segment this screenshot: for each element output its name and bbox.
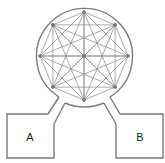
network-node-center	[82, 54, 86, 58]
chamber-b-label: B	[136, 131, 143, 143]
network-node-left	[38, 54, 42, 58]
network-edge	[53, 56, 84, 87]
tube-a	[48, 97, 65, 124]
network-node-top	[82, 10, 86, 14]
network-chamber-diagram: A B	[0, 0, 165, 163]
network-node-bottom	[82, 98, 86, 102]
network-node-lower-left	[51, 85, 55, 89]
network-node-right	[126, 54, 130, 58]
tube-b	[104, 97, 120, 124]
network-edge	[84, 56, 115, 87]
central-chamber-bottom-arc	[65, 103, 104, 107]
network-node-upper-left	[51, 23, 55, 27]
network-node-lower-right	[113, 85, 117, 89]
central-chamber-outline	[37, 8, 133, 97]
chamber-a-label: A	[26, 131, 34, 143]
network-edge	[84, 25, 115, 56]
network-edge	[53, 25, 84, 56]
network-node-upper-right	[113, 23, 117, 27]
